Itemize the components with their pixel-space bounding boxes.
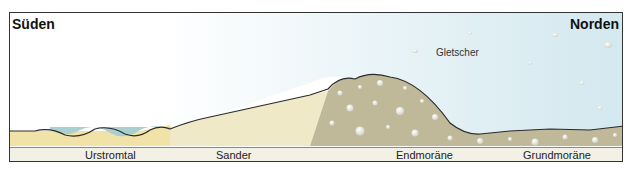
zone-label-sander: Sander [216,149,251,161]
zone-label-endmoraene: Endmoräne [396,149,453,161]
diagram-frame: Süden Norden Gletscher Urstromtal Sander… [9,12,623,162]
direction-south-label: Süden [12,16,55,32]
direction-north-label: Norden [570,16,619,32]
zone-label-urstromtal: Urstromtal [85,149,136,161]
glacial-landscape-illustration [10,13,623,162]
zone-label-grundmoraene: Grundmoräne [523,149,591,161]
glacier-label: Gletscher [436,47,479,58]
